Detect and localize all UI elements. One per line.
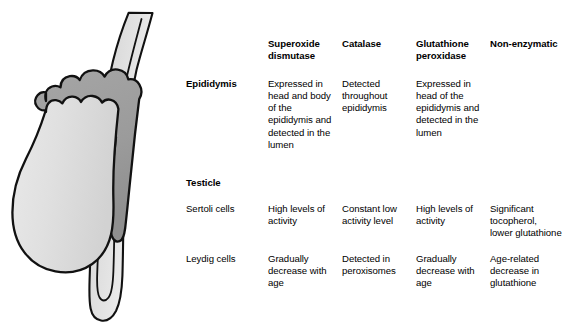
row-spacer [186, 151, 570, 177]
cell-sertoli-glutathione-peroxidase: High levels of activity [416, 203, 490, 239]
row-label-text: Leydig cells [186, 253, 236, 264]
table-header-row: Superoxide dismutase Catalase Glutathion… [186, 38, 570, 62]
antioxidant-table-panel: Superoxide dismutase Catalase Glutathion… [186, 0, 570, 333]
cell-sertoli-superoxide-dismutase: High levels of activity [268, 203, 342, 239]
cell-leydig-catalase: Detected in peroxisomes [342, 253, 416, 289]
cell-epididymis-superoxide-dismutase: Expressed in head and body of the epidid… [268, 78, 342, 151]
column-header-non-enzymatic: Non-enzymatic [490, 38, 570, 62]
row-label-leydig-cells: Leydig cells [186, 253, 268, 289]
cell-leydig-superoxide-dismutase: Gradually decrease with age [268, 253, 342, 289]
antioxidant-table: Superoxide dismutase Catalase Glutathion… [186, 38, 570, 289]
cell-testicle-catalase [342, 177, 416, 189]
row-label-text: Testicle [186, 177, 221, 188]
table-row: Epididymis Expressed in head and body of… [186, 78, 570, 151]
cell-leydig-non-enzymatic: Age-related decrease in glutathione [490, 253, 570, 289]
table-row: Sertoli cells High levels of activity Co… [186, 203, 570, 239]
cell-testicle-superoxide-dismutase [268, 177, 342, 189]
header-corner-blank [186, 38, 268, 62]
row-spacer [186, 239, 570, 253]
row-label-epididymis: Epididymis [186, 78, 268, 151]
row-label-text: Epididymis [186, 78, 237, 89]
column-header-glutathione-peroxidase: Glutathione peroxidase [416, 38, 490, 62]
anatomy-figure [0, 0, 185, 333]
cell-leydig-glutathione-peroxidase: Gradually decrease with age [416, 253, 490, 289]
testicle-shape [12, 96, 118, 272]
row-spacer [186, 189, 570, 203]
cell-sertoli-catalase: Constant low activity level [342, 203, 416, 239]
table-row: Leydig cells Gradually decrease with age… [186, 253, 570, 289]
cell-testicle-non-enzymatic [490, 177, 570, 189]
column-header-catalase: Catalase [342, 38, 416, 62]
anatomy-illustration [0, 0, 185, 333]
cell-epididymis-non-enzymatic [490, 78, 570, 151]
table-group-row: Testicle [186, 177, 570, 189]
cell-testicle-glutathione-peroxidase [416, 177, 490, 189]
cell-sertoli-non-enzymatic: Significant tocopherol, lower glutathion… [490, 203, 570, 239]
column-header-superoxide-dismutase: Superoxide dismutase [268, 38, 342, 62]
row-label-text: Sertoli cells [186, 203, 234, 214]
header-spacer [186, 62, 570, 78]
cell-epididymis-glutathione-peroxidase: Expressed in head of the epididymis and … [416, 78, 490, 151]
row-label-testicle: Testicle [186, 177, 268, 189]
cell-epididymis-catalase: Detected throughout epididymis [342, 78, 416, 151]
row-label-sertoli-cells: Sertoli cells [186, 203, 268, 239]
